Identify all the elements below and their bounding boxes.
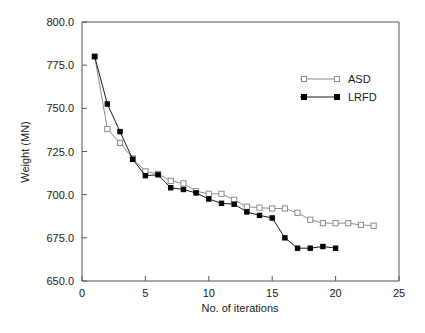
- data-point-lrfd: [245, 210, 249, 214]
- data-point-asd: [219, 191, 224, 196]
- data-point-lrfd: [118, 129, 122, 133]
- legend-label-lrfd: LRFD: [348, 91, 377, 103]
- data-point-asd: [181, 181, 186, 186]
- x-tick-label: 25: [393, 287, 405, 299]
- data-point-lrfd: [92, 54, 96, 58]
- legend-marker-lrfd-right: [335, 95, 340, 100]
- y-tick-label: 800.0: [46, 16, 74, 28]
- data-point-lrfd: [270, 216, 274, 220]
- data-point-asd: [371, 223, 376, 228]
- y-tick-label: 775.0: [46, 59, 74, 71]
- x-tick-label: 0: [79, 287, 85, 299]
- data-point-lrfd: [308, 246, 312, 250]
- data-point-asd: [282, 206, 287, 211]
- x-tick-label: 20: [329, 287, 341, 299]
- x-axis-title: No. of iterations: [201, 302, 279, 314]
- legend-label-asd: ASD: [348, 73, 371, 85]
- data-point-asd: [105, 126, 110, 131]
- data-point-lrfd: [232, 202, 236, 206]
- data-point-asd: [308, 217, 313, 222]
- chart-figure: 650.0675.0700.0725.0750.0775.0800.0 0510…: [0, 0, 425, 333]
- data-point-asd: [117, 140, 122, 145]
- data-point-lrfd: [219, 201, 223, 205]
- y-tick-label: 750.0: [46, 102, 74, 114]
- data-point-lrfd: [181, 187, 185, 191]
- data-point-asd: [358, 222, 363, 227]
- data-point-asd: [320, 221, 325, 226]
- y-tick-label: 675.0: [46, 232, 74, 244]
- data-point-lrfd: [207, 197, 211, 201]
- data-point-lrfd: [169, 186, 173, 190]
- y-tick-label: 725.0: [46, 146, 74, 158]
- data-point-lrfd: [131, 157, 135, 161]
- data-point-lrfd: [194, 191, 198, 195]
- data-point-asd: [257, 205, 262, 210]
- data-point-lrfd: [283, 236, 287, 240]
- weight-vs-iterations-line-chart: 650.0675.0700.0725.0750.0775.0800.0 0510…: [0, 0, 425, 333]
- data-point-asd: [244, 204, 249, 209]
- data-point-lrfd: [295, 246, 299, 250]
- data-point-lrfd: [105, 102, 109, 106]
- data-point-asd: [333, 221, 338, 226]
- data-point-lrfd: [156, 173, 160, 177]
- data-point-asd: [206, 191, 211, 196]
- data-point-asd: [346, 221, 351, 226]
- data-point-asd: [168, 178, 173, 183]
- y-tick-label: 650.0: [46, 275, 74, 287]
- x-tick-label: 5: [142, 287, 148, 299]
- legend-marker-lrfd-left: [302, 95, 307, 100]
- data-point-lrfd: [257, 213, 261, 217]
- data-point-asd: [270, 206, 275, 211]
- data-point-lrfd: [143, 173, 147, 177]
- data-point-asd: [295, 210, 300, 215]
- y-tick-label: 700.0: [46, 189, 74, 201]
- y-axis-title: Weight (MN): [19, 121, 31, 183]
- legend-marker-asd-left: [302, 77, 307, 82]
- data-point-lrfd: [321, 244, 325, 248]
- legend-marker-asd-right: [335, 77, 340, 82]
- x-tick-label: 10: [203, 287, 215, 299]
- data-point-lrfd: [333, 246, 337, 250]
- x-tick-label: 15: [266, 287, 278, 299]
